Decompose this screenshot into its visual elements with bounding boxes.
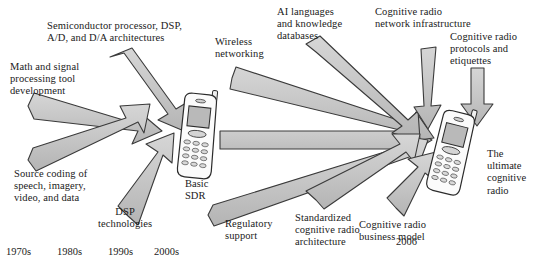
label-wireless-networking: Wireless networking [215,36,264,60]
phone-basic-sdr [177,87,220,179]
label-ai-languages: AI languages and knowledge databases [277,6,342,43]
label-cr-network-infrastructure: Cognitive radio network infrastructure [375,6,471,30]
diagram-figure: Semiconductor processor, DSP, A/D, and D… [0,0,534,267]
label-cr-protocols: Cognitive radio protocols and etiquettes [450,31,517,68]
timeline-end-year: 2006 [396,236,417,247]
label-dsp-technologies: DSP technologies [98,206,152,230]
timeline-tick-1970s: 1970s [6,246,31,257]
label-math-signal: Math and signal processing tool developm… [10,61,79,98]
label-semiconductor: Semiconductor processor, DSP, A/D, and D… [47,20,182,44]
label-ultimate-cognitive-radio: The ultimate cognitive radio [487,148,526,197]
label-basic-sdr: Basic SDR [185,178,208,202]
arrow-ai-languages [306,36,420,140]
label-regulatory-support: Regulatory support [225,218,273,242]
label-source-coding: Source coding of speech, imagery, video,… [14,168,87,205]
timeline-tick-1980s: 1980s [57,246,82,257]
timeline-tick-1990s: 1990s [108,246,133,257]
timeline-tick-2000s: 2000s [154,246,179,257]
label-standardized-cr-architecture: Standardized cognitive radio architectur… [295,212,360,249]
